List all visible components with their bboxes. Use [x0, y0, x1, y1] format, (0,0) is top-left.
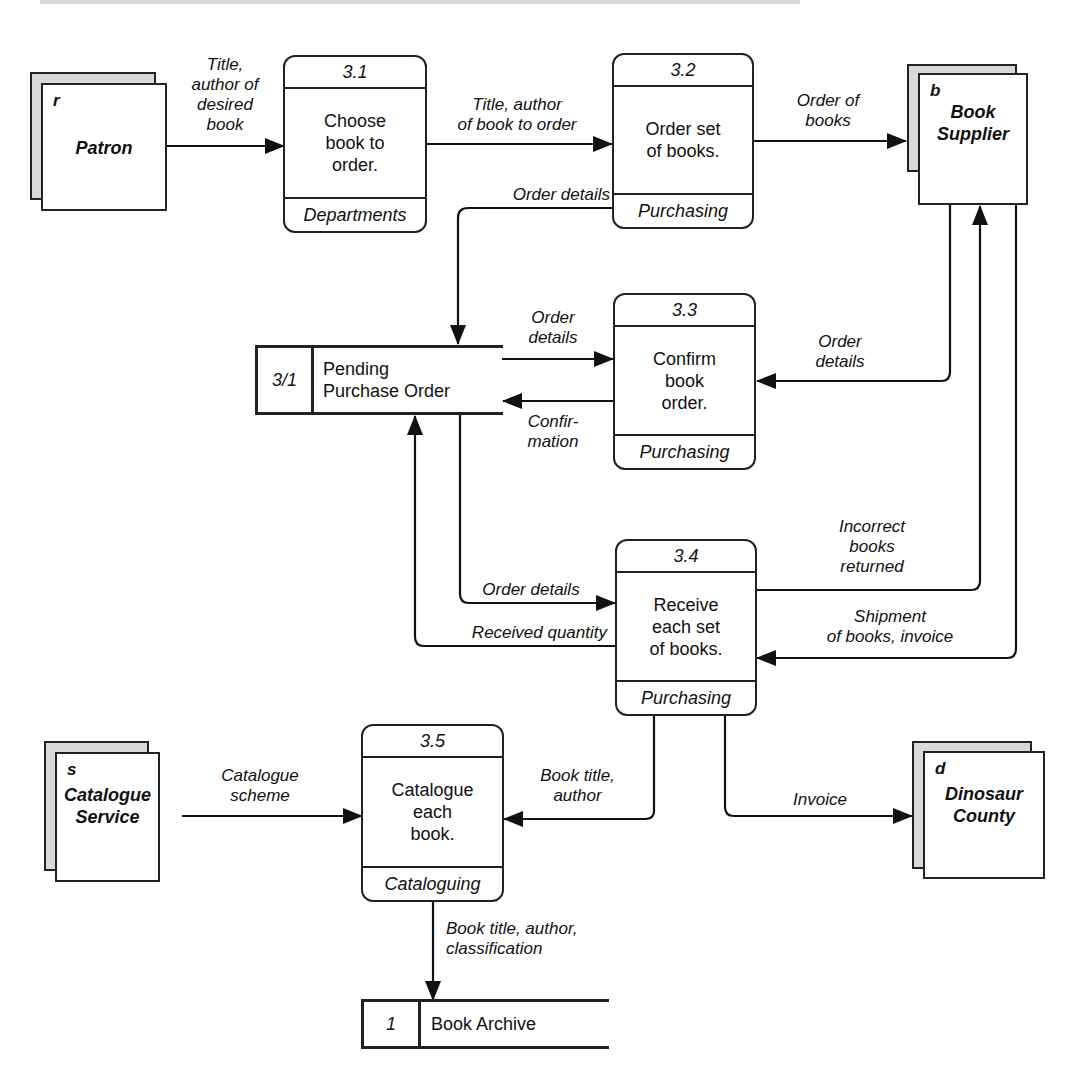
process-3.4: 3.4 Receiveeach setof books. Purchasing — [615, 539, 757, 716]
process-label: Confirmbookorder. — [615, 327, 754, 434]
flow-label-order-details-to-store: Order details — [474, 185, 610, 205]
entity-code: b — [930, 81, 940, 101]
process-department: Purchasing — [614, 193, 752, 227]
data-store-book-archive: 1 Book Archive — [361, 999, 609, 1049]
entity-code: d — [935, 759, 945, 779]
process-label: Choosebook toorder. — [285, 89, 425, 197]
process-3.3: 3.3 Confirmbookorder. Purchasing — [613, 293, 756, 470]
process-id: 3.4 — [617, 541, 755, 573]
entity-code: s — [67, 760, 76, 780]
entity-code: r — [53, 91, 60, 111]
flow-label-order-details-to-3.3: Orderdetails — [508, 308, 598, 348]
data-store-pending-purchase-order: 3/1 PendingPurchase Order — [255, 345, 503, 415]
process-3.2: 3.2 Order setof books. Purchasing — [612, 53, 754, 229]
flow-label-classification: Book title, author,classification — [446, 919, 616, 959]
flow-label-order-of-books: Order ofbooks — [778, 91, 878, 131]
flow-label-order-details-to-3.4: Order details — [466, 580, 596, 600]
entity-name: Patron — [43, 137, 165, 159]
store-id: 3/1 — [255, 345, 314, 415]
flow-label-book-to-order: Title, authorof book to order — [432, 95, 602, 135]
entity-box: b BookSupplier — [918, 73, 1028, 205]
process-label: Order setof books. — [614, 87, 752, 193]
process-department: Purchasing — [617, 680, 755, 714]
process-id: 3.1 — [285, 57, 425, 89]
process-department: Purchasing — [615, 434, 754, 468]
entity-name: BookSupplier — [920, 101, 1026, 145]
flow-label-supplier-order-details: Orderdetails — [790, 332, 890, 372]
store-name: PendingPurchase Order — [323, 345, 450, 415]
store-name: Book Archive — [431, 999, 536, 1049]
process-department: Cataloguing — [363, 866, 502, 900]
entity-name: CatalogueService — [57, 784, 158, 828]
flow-label-catalogue-scheme: Cataloguescheme — [205, 766, 315, 806]
process-3.1: 3.1 Choosebook toorder. Departments — [283, 55, 427, 233]
process-id: 3.5 — [363, 726, 502, 758]
external-entity-catalogue-service: s CatalogueService — [44, 741, 184, 883]
process-label: Catalogueeachbook. — [363, 758, 502, 866]
store-id: 1 — [361, 999, 421, 1049]
process-id: 3.2 — [614, 55, 752, 87]
entity-name: DinosaurCounty — [925, 783, 1043, 827]
flow-label-invoice: Invoice — [775, 790, 865, 810]
external-entity-book-supplier: b BookSupplier — [907, 64, 1032, 209]
flow-label-shipment-invoice: Shipmentof books, invoice — [800, 607, 980, 647]
flow-label-confirmation: Confir-mation — [508, 412, 598, 452]
external-entity-patron: r Patron — [30, 72, 170, 212]
flow-label-incorrect-books-returned: Incorrectbooksreturned — [812, 517, 932, 577]
flow-label-desired-book: Title,author ofdesiredbook — [180, 55, 270, 135]
flow-label-book-title-author: Book title,author — [515, 766, 640, 806]
entity-box: r Patron — [41, 83, 167, 211]
entity-box: d DinosaurCounty — [923, 751, 1045, 879]
process-id: 3.3 — [615, 295, 754, 327]
process-department: Departments — [285, 197, 425, 231]
process-3.5: 3.5 Catalogueeachbook. Cataloguing — [361, 724, 504, 902]
external-entity-dinosaur-county: d DinosaurCounty — [912, 741, 1052, 881]
process-label: Receiveeach setof books. — [617, 573, 755, 680]
entity-box: s CatalogueService — [55, 752, 160, 882]
flow-label-received-quantity: Received quantity — [432, 623, 607, 643]
